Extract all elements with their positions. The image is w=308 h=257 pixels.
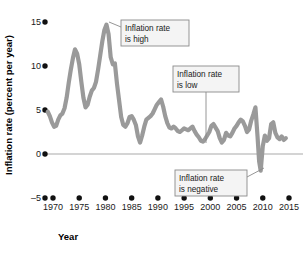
annotation-inflation-high: Inflation rateis high <box>109 20 189 46</box>
y-tick-label: 10 <box>31 61 41 71</box>
chart-canvas: –505101519701975198019851990199520002005… <box>0 0 308 257</box>
y-tick-dot <box>42 151 47 156</box>
x-tick-dot <box>77 195 82 200</box>
annotation-label: Inflation rate <box>177 70 223 79</box>
annotation-inflation-negative: Inflation rateis negative <box>175 168 264 196</box>
y-tick-dot <box>42 195 47 200</box>
annotation-label: Inflation rate <box>179 174 225 183</box>
y-axis-title: Inflation rate (percent per year) <box>3 35 14 175</box>
x-tick-dot <box>103 195 108 200</box>
x-tick-label: 2010 <box>253 202 273 212</box>
x-axis-title: Year <box>58 231 78 242</box>
y-tick-dot <box>42 19 47 24</box>
x-tick-dot <box>260 195 265 200</box>
x-tick-label: 2000 <box>200 202 220 212</box>
annotation-label: is high <box>125 35 149 44</box>
annotation-label: Inflation rate <box>125 24 171 33</box>
x-tick-dot <box>129 195 134 200</box>
y-tick-dot <box>42 63 47 68</box>
x-tick-dot <box>286 195 291 200</box>
y-tick-label: 0 <box>36 149 41 159</box>
x-tick-label: 1995 <box>174 202 194 212</box>
annotation-label: is negative <box>179 185 219 194</box>
x-tick-dot <box>155 195 160 200</box>
x-tick-label: 2015 <box>279 202 299 212</box>
inflation-rate-line <box>48 25 286 171</box>
y-tick-label: 5 <box>36 105 41 115</box>
y-tick-label: 15 <box>31 17 41 27</box>
inflation-rate-chart: –505101519701975198019851990199520002005… <box>0 0 308 257</box>
annotation-label: is low <box>177 81 198 90</box>
x-tick-dot <box>50 195 55 200</box>
x-tick-label: 1975 <box>69 202 89 212</box>
x-tick-label: 1985 <box>122 202 142 212</box>
y-tick-label: –5 <box>31 193 41 203</box>
x-tick-label: 1990 <box>148 202 168 212</box>
annotation-leader-line <box>109 22 121 27</box>
x-tick-label: 1980 <box>95 202 115 212</box>
x-tick-label: 2005 <box>227 202 247 212</box>
x-tick-label: 1970 <box>43 202 63 212</box>
